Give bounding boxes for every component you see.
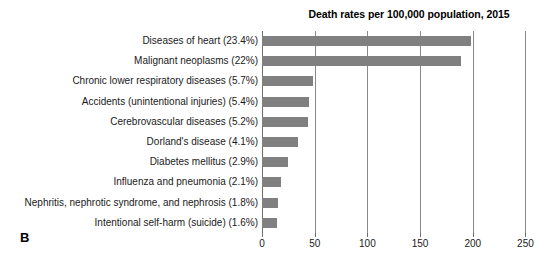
bar (262, 157, 288, 167)
category-label: Cerebrovascular diseases (5.2%) (110, 112, 258, 132)
bar-row (262, 112, 536, 132)
bar-series (262, 31, 536, 233)
chart-title: Death rates per 100,000 population, 2015 (262, 8, 556, 20)
category-label: Intentional self-harm (suicide) (1.6%) (95, 213, 258, 233)
category-label: Diseases of heart (23.4%) (142, 31, 258, 51)
category-label: Malignant neoplasms (22%) (134, 51, 258, 71)
bar (262, 117, 308, 127)
x-tick-label: 50 (295, 238, 335, 249)
bar-row (262, 193, 536, 213)
x-tick-mark (367, 233, 368, 237)
x-tick-mark (315, 233, 316, 237)
bar (262, 97, 309, 107)
bar-row (262, 172, 536, 192)
x-tick-label: 150 (400, 238, 440, 249)
category-label: Accidents (unintentional injuries) (5.4%… (82, 92, 258, 112)
category-label: Influenza and pneumonia (2.1%) (113, 172, 258, 192)
category-label: Nephritis, nephrotic syndrome, and nephr… (25, 193, 258, 213)
bar (262, 76, 313, 86)
x-axis: 050100150200250 (262, 233, 536, 257)
x-tick-label: 200 (453, 238, 493, 249)
bar-row (262, 31, 536, 51)
category-label: Diabetes mellitus (2.9%) (150, 152, 258, 172)
bar (262, 198, 278, 208)
figure-panel-b: Death rates per 100,000 population, 2015… (0, 0, 556, 267)
x-tick-label: 100 (347, 238, 387, 249)
bar (262, 218, 277, 228)
bar (262, 36, 471, 46)
x-tick-label: 0 (242, 238, 282, 249)
bar (262, 137, 298, 147)
x-tick-label: 250 (505, 238, 545, 249)
bar-row (262, 132, 536, 152)
bar-row (262, 51, 536, 71)
x-tick-mark (262, 233, 263, 237)
x-tick-mark (420, 233, 421, 237)
category-label: Chronic lower respiratory diseases (5.7%… (72, 71, 258, 91)
category-axis-labels: Diseases of heart (23.4%)Malignant neopl… (0, 31, 258, 233)
x-tick-mark (525, 233, 526, 237)
bar-row (262, 213, 536, 233)
bar (262, 177, 281, 187)
bar (262, 56, 461, 66)
category-label: Dorland's disease (4.1%) (147, 132, 258, 152)
plot-area (262, 31, 536, 233)
bar-row (262, 71, 536, 91)
bar-row (262, 92, 536, 112)
bar-row (262, 152, 536, 172)
x-tick-mark (473, 233, 474, 237)
